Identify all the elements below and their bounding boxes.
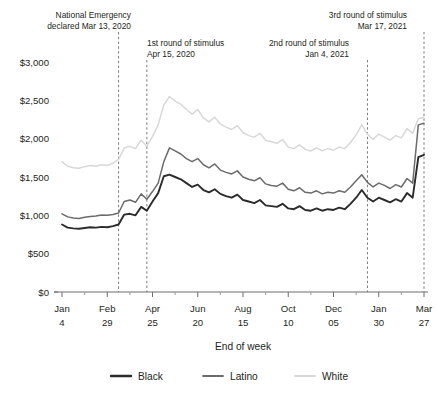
stimulus-spending-line-chart: National Emergencydeclared Mar 13, 20201… — [0, 0, 437, 398]
x-tick-day: 10 — [283, 317, 294, 328]
x-tick-day: 29 — [102, 317, 113, 328]
x-tick-day: 15 — [238, 317, 249, 328]
x-tick-month: Jun — [190, 303, 205, 314]
annotation-first-stimulus-line2: Apr 15, 2020 — [147, 49, 195, 59]
annotation-second-stimulus-line1: 2nd round of stimulus — [269, 38, 349, 48]
x-axis-title: End of week — [215, 341, 272, 352]
annotation-labels: National Emergencydeclared Mar 13, 20201… — [47, 10, 407, 59]
x-tick-month: Mar — [416, 303, 433, 314]
x-tick-month: Jan — [54, 303, 69, 314]
series-line-latino — [62, 123, 424, 218]
legend-label-black: Black — [138, 371, 164, 382]
annotation-first-stimulus-line1: 1st round of stimulus — [147, 38, 224, 48]
annotation-third-stimulus-line1: 3rd round of stimulus — [329, 10, 407, 20]
y-tick-label: $2,000 — [20, 133, 49, 144]
annotation-national-emergency-line2: declared Mar 13, 2020 — [47, 21, 131, 31]
x-tick-day: 30 — [373, 317, 384, 328]
x-tick-month: Apr — [145, 303, 161, 314]
y-tick-label: $2,500 — [20, 95, 49, 106]
series-lines — [62, 97, 424, 229]
annotation-third-stimulus-line2: Mar 17, 2021 — [358, 21, 408, 31]
legend: BlackLatinoWhite — [111, 371, 348, 382]
x-tick-month: Feb — [99, 303, 116, 314]
y-tick-label: $500 — [28, 248, 49, 259]
x-tick-month: Jan — [371, 303, 386, 314]
x-axis-title-group: End of week — [215, 341, 272, 352]
chart-container: National Emergencydeclared Mar 13, 20201… — [0, 0, 437, 398]
annotation-national-emergency-line1: National Emergency — [56, 10, 132, 20]
x-tick-month: Oct — [281, 303, 296, 314]
legend-label-white: White — [322, 371, 348, 382]
x-tick-month: Aug — [234, 303, 251, 314]
x-axis-tick-labels: Jan4Feb29Apr25Jun20Aug15Oct10Dec05Jan30M… — [54, 303, 433, 328]
x-tick-day: 20 — [192, 317, 203, 328]
x-axis-line-group — [54, 292, 428, 297]
y-tick-label: $1,500 — [20, 172, 49, 183]
y-tick-label: $1,000 — [20, 210, 49, 221]
series-line-black — [62, 155, 424, 229]
x-tick-day: 4 — [59, 317, 65, 328]
x-tick-day: 27 — [419, 317, 430, 328]
legend-label-latino: Latino — [230, 371, 258, 382]
y-axis-tick-labels: $0$500$1,000$1,500$2,000$2,500$3,000 — [20, 57, 49, 298]
annotation-second-stimulus-line2: Jan 4, 2021 — [305, 49, 349, 59]
y-tick-label: $0 — [38, 287, 49, 298]
series-line-white — [62, 97, 424, 169]
y-tick-label: $3,000 — [20, 57, 49, 68]
x-tick-month: Dec — [325, 303, 342, 314]
x-tick-day: 25 — [147, 317, 158, 328]
x-tick-day: 05 — [328, 317, 339, 328]
